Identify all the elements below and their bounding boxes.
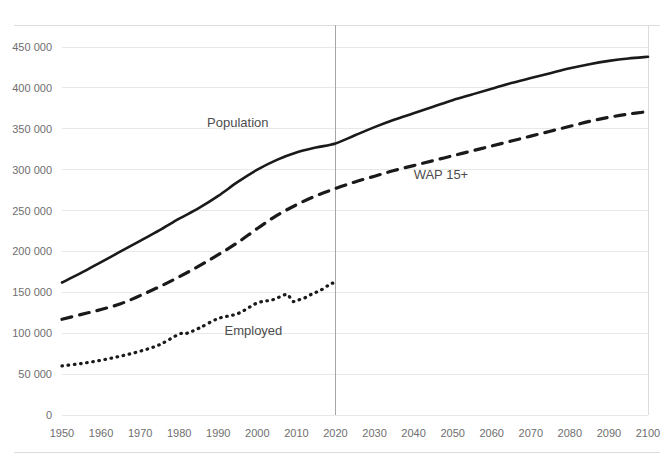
y-tick-label-150000: 150 000 bbox=[12, 286, 52, 298]
x-tick-label-2030: 2030 bbox=[362, 427, 386, 439]
y-tick-label-50000: 50 000 bbox=[18, 368, 52, 380]
series-lines bbox=[62, 57, 648, 366]
x-tick-label-1950: 1950 bbox=[50, 427, 74, 439]
y-tick-label-100000: 100 000 bbox=[12, 327, 52, 339]
x-tick-label-1990: 1990 bbox=[206, 427, 230, 439]
annotation-wap-15: WAP 15+ bbox=[414, 167, 469, 182]
x-tick-label-2060: 2060 bbox=[479, 427, 503, 439]
x-tick-label-2020: 2020 bbox=[323, 427, 347, 439]
x-tick-label-1970: 1970 bbox=[128, 427, 152, 439]
x-tick-label-2100: 2100 bbox=[636, 427, 660, 439]
chart-canvas: 050 000100 000150 000200 000250 000300 0… bbox=[0, 0, 671, 465]
series-annotations: PopulationWAP 15+Employed bbox=[207, 115, 468, 338]
y-tick-label-250000: 250 000 bbox=[12, 205, 52, 217]
gridlines bbox=[62, 47, 648, 415]
series-line-wap-15 bbox=[62, 112, 648, 320]
x-tick-label-1960: 1960 bbox=[89, 427, 113, 439]
population-projection-chart: 050 000100 000150 000200 000250 000300 0… bbox=[0, 0, 671, 465]
annotation-population: Population bbox=[207, 115, 268, 130]
chart-frame bbox=[14, 25, 660, 452]
x-axis-tick-labels: 1950196019701980199020002010202020302040… bbox=[50, 427, 660, 439]
x-tick-label-1980: 1980 bbox=[167, 427, 191, 439]
y-tick-label-450000: 450 000 bbox=[12, 41, 52, 53]
y-tick-label-0: 0 bbox=[46, 409, 52, 421]
x-tick-label-2010: 2010 bbox=[284, 427, 308, 439]
x-tick-label-2070: 2070 bbox=[519, 427, 543, 439]
x-tick-label-2000: 2000 bbox=[245, 427, 269, 439]
y-tick-label-400000: 400 000 bbox=[12, 82, 52, 94]
y-tick-label-300000: 300 000 bbox=[12, 164, 52, 176]
y-tick-label-350000: 350 000 bbox=[12, 123, 52, 135]
x-tick-label-2050: 2050 bbox=[440, 427, 464, 439]
x-tick-label-2040: 2040 bbox=[401, 427, 425, 439]
x-tick-label-2080: 2080 bbox=[558, 427, 582, 439]
y-axis-tick-labels: 050 000100 000150 000200 000250 000300 0… bbox=[12, 41, 52, 421]
series-line-employed bbox=[62, 283, 335, 366]
x-tick-label-2090: 2090 bbox=[597, 427, 621, 439]
y-tick-label-200000: 200 000 bbox=[12, 245, 52, 257]
annotation-employed: Employed bbox=[225, 323, 283, 338]
